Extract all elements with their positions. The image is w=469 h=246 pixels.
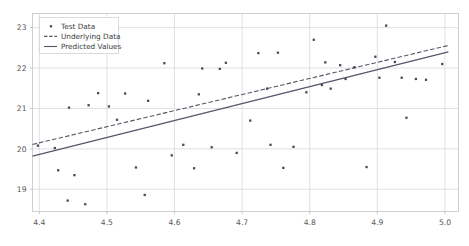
data-point: [144, 194, 146, 196]
data-point: [415, 78, 417, 80]
legend-label: Underlying Data: [61, 32, 120, 41]
data-point: [277, 52, 279, 54]
data-point: [171, 154, 173, 156]
data-point: [305, 91, 307, 93]
ytick-label-21: 21: [17, 104, 27, 113]
ytick-label-22: 22: [17, 64, 27, 73]
data-point: [116, 119, 118, 121]
data-point: [219, 68, 221, 70]
legend-marker-point: [50, 25, 52, 27]
data-point: [378, 77, 380, 79]
legend-label: Predicted Values: [61, 42, 122, 51]
data-point: [249, 119, 251, 121]
data-point: [365, 166, 367, 168]
data-point: [405, 117, 407, 119]
ytick-label-23: 23: [17, 23, 27, 32]
data-point: [124, 92, 126, 94]
scatter-plot: 4.44.54.64.74.84.95.01920212223 Test Dat…: [0, 0, 469, 246]
data-point: [425, 79, 427, 81]
xtick-label-4.4: 4.4: [33, 218, 45, 227]
data-point: [37, 144, 39, 146]
data-point: [97, 92, 99, 94]
data-point: [54, 147, 56, 149]
data-point: [313, 39, 315, 41]
data-point: [135, 166, 137, 168]
data-point: [257, 52, 259, 54]
data-point: [198, 93, 200, 95]
data-point: [282, 167, 284, 169]
data-point: [87, 104, 89, 106]
data-point: [57, 169, 59, 171]
data-point: [225, 62, 227, 64]
data-point: [236, 152, 238, 154]
data-point: [193, 167, 195, 169]
data-point: [68, 107, 70, 109]
data-point: [292, 146, 294, 148]
xtick-label-4.9: 4.9: [371, 218, 383, 227]
xtick-label-4.6: 4.6: [168, 218, 180, 227]
xtick-label-4.8: 4.8: [304, 218, 316, 227]
data-point: [67, 199, 69, 201]
xtick-label-4.5: 4.5: [101, 218, 113, 227]
chart-figure: 4.44.54.64.74.84.95.01920212223 Test Dat…: [0, 0, 469, 246]
data-point: [266, 88, 268, 90]
legend-label: Test Data: [60, 22, 95, 31]
data-point: [385, 24, 387, 26]
data-point: [211, 146, 213, 148]
data-point: [330, 88, 332, 90]
data-point: [163, 62, 165, 64]
ytick-label-19: 19: [17, 185, 27, 194]
data-point: [324, 61, 326, 63]
legend[interactable]: Test DataUnderlying DataPredicted Values: [40, 18, 122, 54]
data-point: [201, 67, 203, 69]
xtick-label-4.7: 4.7: [236, 218, 248, 227]
data-point: [269, 144, 271, 146]
data-point: [321, 84, 323, 86]
data-point: [147, 100, 149, 102]
data-point: [394, 61, 396, 63]
data-point: [339, 64, 341, 66]
data-point: [374, 56, 376, 58]
data-point: [441, 63, 443, 65]
data-point: [108, 105, 110, 107]
data-point: [84, 203, 86, 205]
data-point: [353, 66, 355, 68]
data-point: [344, 78, 346, 80]
data-point: [182, 144, 184, 146]
xtick-label-5.0: 5.0: [439, 218, 451, 227]
ytick-label-20: 20: [17, 145, 27, 154]
data-point: [401, 77, 403, 79]
data-point: [73, 174, 75, 176]
